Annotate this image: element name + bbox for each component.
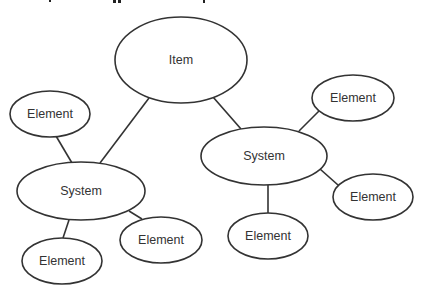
edge-system-left-to-element-left-bottom [63, 220, 69, 238]
node-label: System [243, 149, 285, 163]
node-system-left: System [17, 162, 145, 220]
node-label: Element [27, 107, 73, 121]
node-label: Item [169, 53, 193, 67]
edge-system-right-to-element-right-right [320, 169, 338, 185]
node-element-right-top: Element [312, 75, 394, 121]
node-label: Element [39, 254, 85, 268]
edge-system-right-to-element-right-top [299, 111, 319, 131]
hierarchy-diagram: ItemSystemSystemElementElementElementEle… [0, 0, 426, 299]
node-label: Element [330, 91, 376, 105]
node-element-left-top: Element [10, 91, 90, 137]
node-label: Element [350, 190, 396, 204]
node-element-right-right: Element [333, 174, 413, 220]
node-element-left-bottom: Element [22, 238, 102, 284]
node-element-left-right: Element [120, 217, 202, 263]
nodes: ItemSystemSystemElementElementElementEle… [10, 17, 413, 284]
cropped-title-fragment [49, 0, 205, 3]
node-item: Item [115, 17, 247, 103]
node-element-right-bottom: Element [228, 213, 308, 259]
node-label: Element [245, 229, 291, 243]
node-label: System [60, 184, 102, 198]
edge-system-left-to-element-left-right [129, 211, 142, 219]
node-system-right: System [201, 127, 327, 185]
edge-system-left-to-element-left-top [56, 136, 72, 163]
edge-item-to-system-right [213, 97, 241, 129]
node-label: Element [138, 233, 184, 247]
edge-item-to-system-left [100, 98, 149, 163]
